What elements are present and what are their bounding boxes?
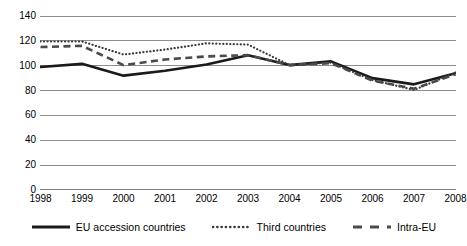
- y-tick-label: 120: [0, 36, 36, 46]
- chart-legend: EU accession countriesThird countriesInt…: [0, 216, 467, 238]
- x-tick-label: 2006: [353, 193, 393, 205]
- dashed-line-swatch: [352, 222, 392, 232]
- x-tick-label: 2004: [270, 193, 310, 205]
- y-tick-label: 60: [0, 110, 36, 120]
- y-axis: 020406080100120140: [0, 0, 36, 206]
- x-tick-label: 2005: [311, 193, 351, 205]
- legend-item[interactable]: Intra-EU: [352, 221, 436, 233]
- x-tick-label: 1998: [21, 193, 61, 205]
- legend-label: Third countries: [257, 221, 326, 233]
- x-tick-label: 1999: [62, 193, 102, 205]
- y-tick-label: 40: [0, 135, 36, 145]
- line-chart: 020406080100120140 199819992000200120022…: [0, 0, 467, 246]
- x-tick-label: 2008: [436, 193, 467, 205]
- series-line-0: [41, 55, 456, 84]
- x-tick-label: 2007: [394, 193, 434, 205]
- y-tick-label: 80: [0, 86, 36, 96]
- x-axis: 1998199920002001200220032004200520062007…: [40, 193, 456, 209]
- solid-line-swatch: [31, 222, 71, 232]
- plot-svg: [40, 16, 456, 190]
- dotted-line-swatch: [212, 222, 252, 232]
- plot-area: [40, 16, 456, 190]
- legend-label: EU accession countries: [76, 221, 186, 233]
- y-tick-label: 20: [0, 160, 36, 170]
- legend-item[interactable]: EU accession countries: [31, 221, 186, 233]
- legend-item[interactable]: Third countries: [212, 221, 326, 233]
- x-tick-label: 2003: [228, 193, 268, 205]
- legend-label: Intra-EU: [397, 221, 436, 233]
- x-tick-label: 2001: [145, 193, 185, 205]
- x-tick-label: 2002: [187, 193, 227, 205]
- y-tick-label: 140: [0, 11, 36, 21]
- y-tick-label: 100: [0, 61, 36, 71]
- gridlines: [40, 16, 456, 190]
- x-tick-label: 2000: [104, 193, 144, 205]
